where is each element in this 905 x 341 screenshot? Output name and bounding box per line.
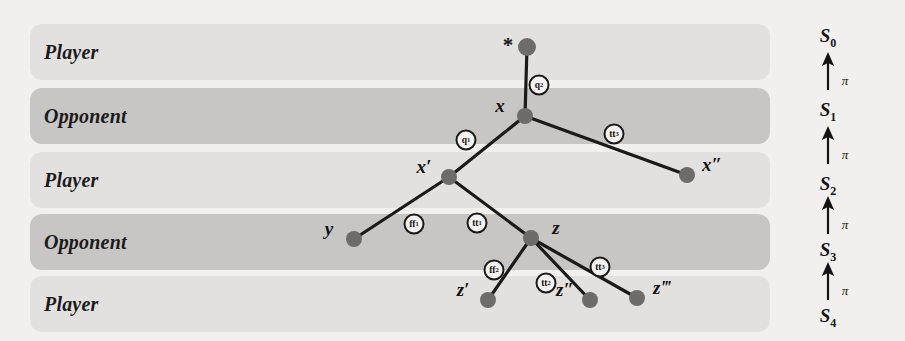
state-label-subscript: 2 [830, 184, 836, 198]
state-label-subscript: 1 [830, 110, 836, 124]
state-label-base: S [820, 173, 831, 194]
tree-node-layer [346, 38, 695, 308]
edge-label-subscript: 2 [496, 267, 499, 274]
edge-label-subscript: 1 [416, 221, 419, 228]
tree-edge-root-to-x [525, 47, 527, 116]
state-label-S2: S2 [820, 173, 837, 199]
tree-node-zp[interactable] [480, 292, 496, 308]
state-ladder-arrow-svg [800, 0, 905, 341]
state-label-base: S [820, 305, 831, 326]
state-ladder: S0S1S2S3S4ππππ [800, 0, 905, 341]
edge-action-label-ff1[interactable]: ff1 [404, 214, 425, 235]
edge-label-subscript: 3 [602, 264, 605, 271]
state-transition-label-0: π [842, 73, 849, 89]
tree-node-label-xpp: x″ [702, 154, 722, 176]
tree-edge-layer [354, 47, 687, 300]
tree-node-label-zppp: z‴ [653, 277, 671, 299]
tree-edge-xp-to-z [449, 177, 531, 238]
tree-node-label-zpp: z″ [556, 279, 574, 301]
edge-label-subscript: 1 [479, 220, 482, 227]
state-label-subscript: 0 [830, 36, 836, 50]
tree-node-z[interactable] [523, 230, 539, 246]
tree-node-label-xp: x′ [417, 156, 432, 178]
state-transition-label-2: π [842, 217, 849, 233]
state-transition-label-3: π [842, 283, 849, 299]
tree-node-xp[interactable] [441, 169, 457, 185]
tree-node-y[interactable] [346, 231, 362, 247]
tree-node-zpp[interactable] [582, 292, 598, 308]
state-label-subscript: 4 [830, 316, 836, 330]
root-star-marker: * [503, 35, 514, 56]
edge-action-label-tt3[interactable]: tt3 [604, 124, 625, 145]
edge-label-subscript: 3 [616, 131, 619, 138]
state-label-subscript: 3 [830, 250, 836, 264]
tree-edge-xp-to-y [354, 177, 449, 239]
tree-node-label-zp: z′ [457, 279, 470, 301]
state-label-S4: S4 [820, 305, 837, 331]
tree-node-label-z: z [552, 217, 559, 239]
tree-node-root[interactable] [518, 38, 536, 56]
edge-action-label-q1[interactable]: q1 [456, 130, 477, 151]
game-tree-svg [0, 0, 905, 341]
tree-node-label-y: y [325, 218, 333, 240]
tree-node-x[interactable] [517, 108, 533, 124]
state-label-base: S [820, 239, 831, 260]
state-label-S0: S0 [820, 25, 837, 51]
state-label-base: S [820, 99, 831, 120]
state-label-S3: S3 [820, 239, 837, 265]
diagram-canvas: PlayerOpponentPlayerOpponentPlayer xx′x″… [0, 0, 905, 341]
tree-node-zppp[interactable] [629, 290, 645, 306]
state-transition-label-1: π [842, 147, 849, 163]
edge-action-label-tt1[interactable]: tt1 [467, 213, 488, 234]
tree-node-label-x: x [495, 95, 505, 117]
edge-action-label-q2[interactable]: q2 [529, 75, 550, 96]
edge-label-subscript: 2 [548, 280, 551, 287]
state-label-base: S [820, 25, 831, 46]
edge-label-subscript: 1 [467, 137, 470, 144]
edge-action-label-tt2[interactable]: tt2 [536, 273, 557, 294]
tree-node-xpp[interactable] [679, 167, 695, 183]
edge-action-label-ff2[interactable]: ff2 [484, 260, 505, 281]
state-label-S1: S1 [820, 99, 837, 125]
edge-action-label-tt3[interactable]: tt3 [590, 257, 611, 278]
tree-edge-x-to-xpp [525, 116, 687, 175]
edge-label-subscript: 2 [540, 82, 543, 89]
